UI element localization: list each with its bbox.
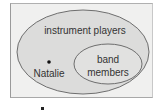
- inner-set-label-line2: members: [84, 67, 132, 78]
- element-label-natalie: Natalie: [27, 68, 71, 79]
- cropped-mark: [41, 107, 44, 110]
- natalie-point: [47, 60, 51, 64]
- inner-set-label-line1: band: [84, 54, 132, 65]
- venn-diagram: [0, 0, 158, 110]
- outer-set-label: instrument players: [40, 25, 130, 36]
